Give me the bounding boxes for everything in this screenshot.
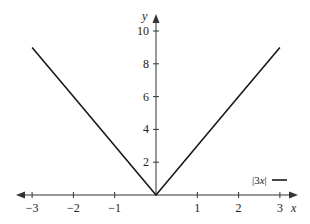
x-tick-label: 3 xyxy=(277,201,283,215)
y-tick-label: 10 xyxy=(137,24,149,38)
x-tick-label: 1 xyxy=(194,201,200,215)
x-axis-left-arrow-icon xyxy=(16,192,25,199)
x-tick-label: −1 xyxy=(108,201,121,215)
y-axis-up-arrow-icon xyxy=(153,14,160,23)
y-tick-label: 6 xyxy=(143,90,149,104)
chart: −3−2−1123 x 246810 y |3x| xyxy=(0,0,310,224)
x-tick-label: −2 xyxy=(67,201,80,215)
legend: |3x| xyxy=(252,174,287,186)
plot-area: −3−2−1123 x 246810 y |3x| xyxy=(0,0,310,224)
x-axis-label: x xyxy=(290,201,297,215)
y-tick-label: 8 xyxy=(143,57,149,71)
y-tick-label: 4 xyxy=(143,122,149,136)
x-tick-label: 2 xyxy=(236,201,242,215)
x-tick-label: −3 xyxy=(26,201,39,215)
x-axis-right-arrow-icon xyxy=(289,192,298,199)
y-axis: 246810 y xyxy=(137,9,160,195)
legend-label: |3x| xyxy=(252,174,267,186)
y-axis-label: y xyxy=(141,9,148,23)
y-tick-label: 2 xyxy=(143,155,149,169)
